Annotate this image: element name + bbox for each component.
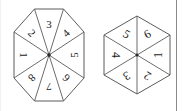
spinner-diagram-page: 1 2 3 4 5 6 7 8 1 2 3 4 5 — [0, 0, 189, 111]
octagon-sector-label-5: 5 — [68, 52, 80, 58]
left-border-rule — [0, 0, 1, 111]
hexagon-spinner: 1 2 3 4 5 6 — [99, 14, 175, 96]
octagon-spinner: 1 2 3 4 5 6 7 8 — [12, 8, 86, 102]
octagon-sector-label-1: 1 — [18, 52, 30, 58]
octagon-spinner-svg: 1 2 3 4 5 6 7 8 — [12, 8, 86, 102]
hexagon-hub — [135, 53, 138, 56]
hexagon-sector-label-1: 1 — [151, 52, 165, 58]
hexagon-sector-label-4: 4 — [109, 52, 123, 58]
right-border-rule — [176, 0, 177, 111]
octagon-hub — [47, 53, 51, 57]
octagon-sector-label-3: 3 — [46, 18, 52, 30]
hexagon-spinner-svg: 1 2 3 4 5 6 — [99, 14, 175, 96]
octagon-sector-label-7: 7 — [46, 81, 52, 93]
